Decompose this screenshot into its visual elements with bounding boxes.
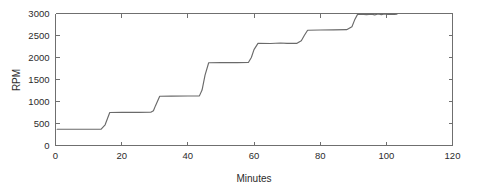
y-tick-label: 2500 [28, 30, 49, 41]
y-axis-tick-labels: 050010001500200025003000 [28, 8, 49, 151]
y-tick-label: 0 [44, 140, 49, 151]
y-axis-title: RPM [11, 69, 22, 91]
x-tick-label: 80 [315, 150, 326, 161]
y-tick-label: 2000 [28, 52, 49, 63]
x-tick-label: 0 [53, 150, 58, 161]
y-tick-label: 1000 [28, 96, 49, 107]
x-tick-label: 20 [116, 150, 127, 161]
x-axis-title: Minutes [236, 173, 271, 184]
x-tick-label: 60 [249, 150, 260, 161]
chart-plot-svg: 050010001500200025003000 020406080100120… [0, 0, 477, 188]
data-series-line [57, 14, 397, 129]
chart-figure: 050010001500200025003000 020406080100120… [0, 0, 477, 188]
y-tick-label: 1500 [28, 74, 49, 85]
x-tick-label: 40 [183, 150, 194, 161]
x-tick-label: 100 [378, 150, 394, 161]
y-tick-label: 3000 [28, 8, 49, 19]
x-tick-label: 120 [445, 150, 461, 161]
axes-frame [56, 14, 453, 146]
data-series-group [57, 14, 397, 129]
x-axis-tick-labels: 020406080100120 [53, 150, 461, 161]
x-axis-ticks [56, 14, 453, 146]
y-tick-label: 500 [34, 118, 50, 129]
y-axis-ticks [56, 14, 453, 146]
